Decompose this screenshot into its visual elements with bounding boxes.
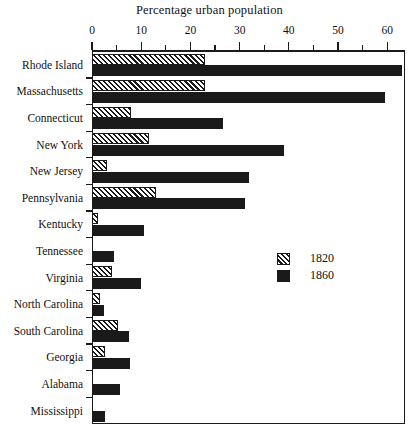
- y-tick: [86, 210, 92, 211]
- y-tick: [86, 184, 92, 185]
- legend-item-1860: 1860: [277, 267, 372, 284]
- y-axis-label-georgia: Georgia: [46, 351, 83, 363]
- x-tick-major: [288, 42, 289, 50]
- y-axis-label-south-carolina: South Carolina: [14, 325, 83, 337]
- bar-1820-south-carolina: [92, 320, 118, 331]
- y-axis-label-tennessee: Tennessee: [36, 245, 83, 257]
- bar-1860-kentucky: [92, 225, 144, 236]
- y-axis-label-alabama: Alabama: [41, 378, 83, 390]
- bar-1820-georgia: [92, 346, 105, 357]
- bar-1860-alabama: [92, 384, 120, 395]
- bar-1860-mississippi: [92, 411, 105, 422]
- bar-1860-georgia: [92, 358, 130, 369]
- y-tick: [86, 343, 92, 344]
- y-axis-label-new-jersey: New Jersey: [30, 165, 83, 177]
- bar-1860-massachusetts: [92, 92, 385, 103]
- y-axis-label-virginia: Virginia: [46, 272, 83, 284]
- x-tick-minor: [264, 45, 265, 50]
- x-tick-minor: [165, 45, 166, 50]
- bar-1860-pennsylvania: [92, 198, 245, 209]
- y-axis-label-rhode-island: Rhode Island: [22, 59, 83, 71]
- x-tick-minor: [214, 45, 215, 50]
- x-tick-minor: [313, 45, 314, 50]
- plot-area: [92, 52, 405, 424]
- x-tick-major: [141, 42, 142, 50]
- x-tick-major: [239, 42, 240, 50]
- legend-item-1820: 1820: [277, 250, 372, 267]
- x-tick-major: [190, 42, 191, 50]
- y-axis-label-connecticut: Connecticut: [27, 112, 83, 124]
- x-tick-label: 10: [135, 24, 147, 36]
- chart-title: Percentage urban population: [0, 3, 419, 18]
- x-tick-label: 30: [234, 24, 246, 36]
- legend-swatch-1820-icon: [277, 253, 290, 265]
- y-tick: [86, 131, 92, 132]
- y-tick: [86, 104, 92, 105]
- y-tick: [86, 370, 92, 371]
- bar-1860-rhode-island: [92, 65, 402, 76]
- y-axis-label-kentucky: Kentucky: [38, 218, 83, 230]
- bar-1820-kentucky: [92, 213, 98, 224]
- bar-1860-connecticut: [92, 118, 223, 129]
- bar-1860-north-carolina: [92, 305, 104, 316]
- bar-chart: Percentage urban population 010203040506…: [0, 0, 419, 440]
- y-tick: [86, 397, 92, 398]
- bar-1860-south-carolina: [92, 331, 129, 342]
- y-tick: [86, 290, 92, 291]
- y-tick: [86, 264, 92, 265]
- bar-1860-new-york: [92, 145, 284, 156]
- x-tick-label: 40: [283, 24, 295, 36]
- legend-swatch-1860-icon: [277, 270, 290, 282]
- x-tick-major: [387, 42, 388, 50]
- x-tick-label: 0: [89, 24, 95, 36]
- bar-1860-new-jersey: [92, 172, 249, 183]
- bar-1820-connecticut: [92, 107, 131, 118]
- legend-label-1860: 1860: [310, 268, 334, 283]
- legend: 1820 1860: [277, 250, 372, 284]
- x-tick-major: [91, 42, 92, 50]
- x-tick-label: 20: [185, 24, 197, 36]
- bar-1820-rhode-island: [92, 54, 205, 65]
- x-tick-major: [337, 42, 338, 50]
- bar-1820-new-jersey: [92, 160, 107, 171]
- caption-fragment: [92, 429, 322, 440]
- legend-label-1820: 1820: [310, 251, 334, 266]
- bar-1820-virginia: [92, 266, 112, 277]
- y-tick: [86, 237, 92, 238]
- x-tick-minor: [116, 45, 117, 50]
- y-axis-label-new-york: New York: [36, 139, 83, 151]
- y-tick: [86, 157, 92, 158]
- y-axis-label-pennsylvania: Pennsylvania: [22, 192, 83, 204]
- bar-1820-pennsylvania: [92, 187, 156, 198]
- y-tick: [86, 77, 92, 78]
- y-axis-label-north-carolina: North Carolina: [14, 298, 83, 310]
- x-tick-label: 50: [332, 24, 344, 36]
- bar-1820-new-york: [92, 133, 149, 144]
- y-axis-label-massachusetts: Massachusetts: [17, 85, 83, 97]
- x-tick-label: 60: [382, 24, 394, 36]
- y-tick: [86, 317, 92, 318]
- bar-1820-north-carolina: [92, 293, 100, 304]
- bar-1860-tennessee: [92, 251, 114, 262]
- bar-1860-virginia: [92, 278, 141, 289]
- bar-1820-massachusetts: [92, 80, 205, 91]
- y-axis-label-mississippi: Mississippi: [31, 405, 83, 417]
- x-tick-minor: [362, 45, 363, 50]
